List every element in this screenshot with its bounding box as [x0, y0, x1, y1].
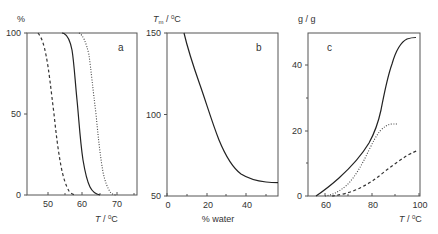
- panel-b-xtick-label: 20: [203, 200, 213, 210]
- panel-b-ylabel: Tm / 0C: [153, 14, 181, 25]
- panel-c: 0 20 40 60 80 100 g / g T / 0C c: [292, 14, 428, 224]
- panel-c-xtick-label: 60: [321, 200, 331, 210]
- panel-b-xtick-label: 0: [165, 200, 170, 210]
- panel-a-xtick-label: 50: [43, 199, 53, 209]
- panel-b-xtick-label: 40: [242, 200, 252, 210]
- panel-c-xtick-label: 100: [412, 200, 427, 210]
- panel-a: 0 50 100 50 60 70 % T / 0C a: [6, 14, 137, 224]
- panel-c-dotted-curve: [325, 124, 397, 196]
- panel-a-ylabel: %: [17, 14, 25, 24]
- panel-a-frame: [27, 33, 137, 195]
- panel-b-letter: b: [256, 42, 262, 53]
- panel-c-solid-curve: [316, 38, 416, 197]
- panel-b-xlabel: % water: [202, 214, 235, 224]
- panel-c-ylabel: g / g: [298, 14, 316, 24]
- panel-c-xtick-label: 80: [368, 200, 378, 210]
- panel-b-ytick-label: 150: [146, 28, 161, 38]
- panel-c-ytick-label: 20: [292, 126, 302, 136]
- panel-b-tm-curve: [184, 33, 278, 183]
- panel-c-letter: c: [327, 42, 332, 53]
- panel-a-letter: a: [118, 42, 124, 53]
- panel-a-xlabel: T / 0C: [95, 214, 118, 224]
- panel-b: 50 100 150 0 20 40 Tm / 0C % water b: [146, 14, 278, 224]
- panel-c-ytick-label: 40: [292, 60, 302, 70]
- panel-c-ytick-label: 0: [297, 191, 302, 201]
- panel-a-ytick-label: 100: [6, 28, 21, 38]
- panel-a-xtick-label: 70: [112, 199, 122, 209]
- panel-c-frame: [308, 33, 420, 196]
- panel-b-ytick-label: 50: [151, 191, 161, 201]
- figure-canvas: 0 50 100 50 60 70 % T / 0C a 50 100 150: [0, 0, 438, 234]
- panel-a-dashed-curve: [38, 33, 76, 195]
- panel-a-xtick-label: 60: [77, 199, 87, 209]
- panel-a-ytick-label: 50: [11, 109, 21, 119]
- panel-b-frame: [167, 33, 278, 196]
- panel-a-ytick-label: 0: [16, 190, 21, 200]
- panel-c-xlabel: T / 0C: [399, 214, 422, 224]
- panel-b-ytick-label: 100: [146, 110, 161, 120]
- panel-a-solid-curel: [62, 33, 100, 195]
